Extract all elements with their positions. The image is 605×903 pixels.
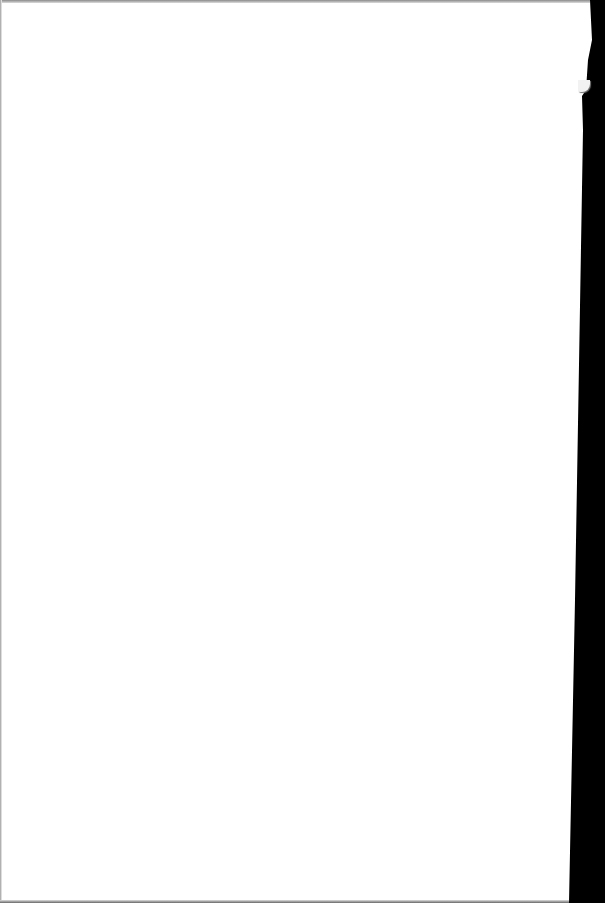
blank-page bbox=[0, 0, 605, 903]
page-content bbox=[20, 20, 560, 880]
folded-corner bbox=[578, 80, 590, 92]
page-top-edge bbox=[0, 0, 590, 3]
page-left-edge bbox=[0, 0, 2, 903]
scanned-document bbox=[0, 0, 605, 903]
